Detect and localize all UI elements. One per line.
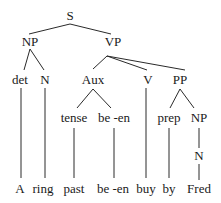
- edge-aux-been1: [93, 89, 111, 108]
- node-v: V: [143, 72, 153, 87]
- node-aux: Aux: [82, 72, 105, 87]
- edge-vp-v: [107, 56, 147, 70]
- edge-vp-aux: [93, 56, 107, 69]
- node-fred: Fred: [187, 181, 211, 196]
- node-past: past: [64, 181, 85, 196]
- edge-np1-det: [24, 49, 30, 70]
- node-np2: NP: [191, 110, 208, 125]
- edge-s-np1: [29, 24, 70, 34]
- tree-nodes: SNPVPdetNAuxVPPtensebe -enprepNPNAringpa…: [12, 8, 211, 196]
- node-a: A: [15, 181, 25, 196]
- node-n1: N: [40, 72, 50, 87]
- node-ring: ring: [33, 181, 54, 196]
- node-prep: prep: [157, 110, 180, 125]
- edge-np1-n1: [30, 49, 44, 70]
- node-n2: N: [194, 148, 204, 163]
- node-been2: be -en: [97, 181, 130, 196]
- edge-vp-pp: [107, 56, 185, 70]
- edge-pp-prep: [170, 89, 180, 108]
- node-vp: VP: [105, 34, 122, 49]
- node-tense: tense: [61, 110, 88, 125]
- node-buy: buy: [136, 181, 156, 196]
- edge-aux-tense: [77, 89, 93, 108]
- syntax-tree-diagram: SNPVPdetNAuxVPPtensebe -enprepNPNAringpa…: [0, 0, 221, 203]
- node-pp: PP: [173, 72, 187, 87]
- edge-s-vp: [70, 24, 111, 34]
- node-det: det: [12, 72, 28, 87]
- node-np1: NP: [22, 34, 39, 49]
- node-been1: be -en: [98, 110, 131, 125]
- node-s: S: [66, 8, 73, 23]
- edge-pp-np2: [180, 89, 194, 108]
- node-by: by: [163, 181, 177, 196]
